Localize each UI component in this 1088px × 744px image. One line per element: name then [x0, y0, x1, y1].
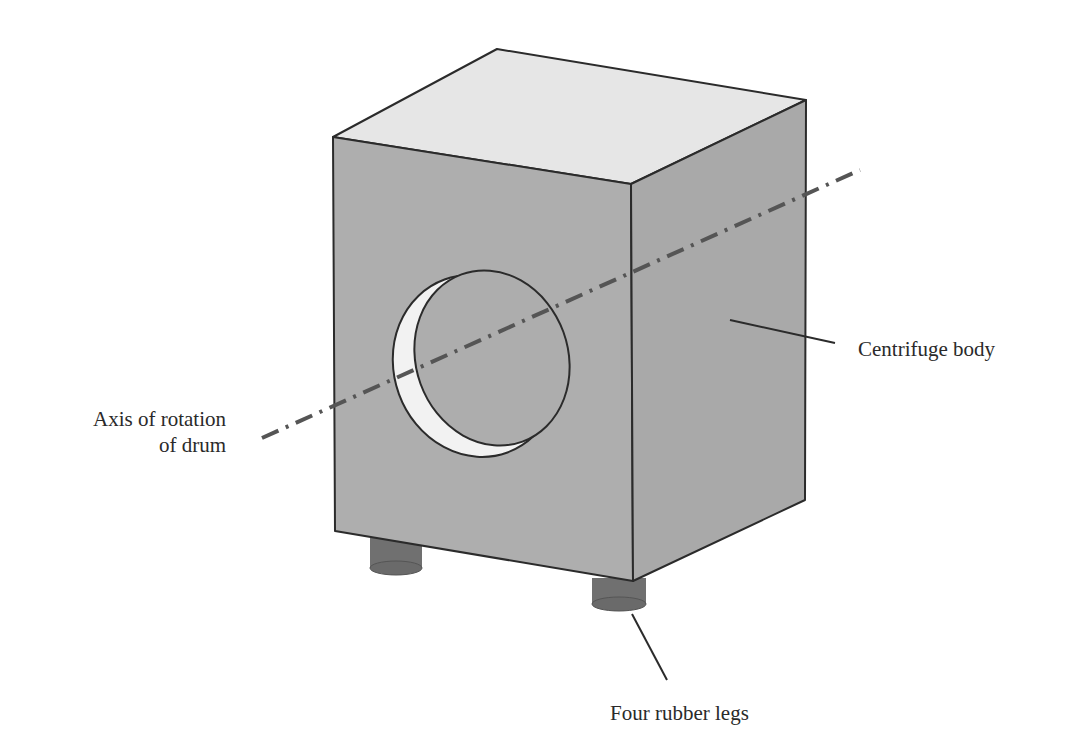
label-axis-line1: Axis of rotation — [55, 406, 226, 432]
centrifuge-diagram — [0, 0, 1088, 744]
label-axis-line2: of drum — [55, 432, 226, 458]
label-centrifuge-body: Centrifuge body — [858, 336, 995, 362]
rubber-leg-front — [592, 578, 646, 611]
label-rubber-legs: Four rubber legs — [610, 700, 749, 726]
side-face — [631, 100, 806, 581]
leader-line-legs — [632, 614, 667, 680]
